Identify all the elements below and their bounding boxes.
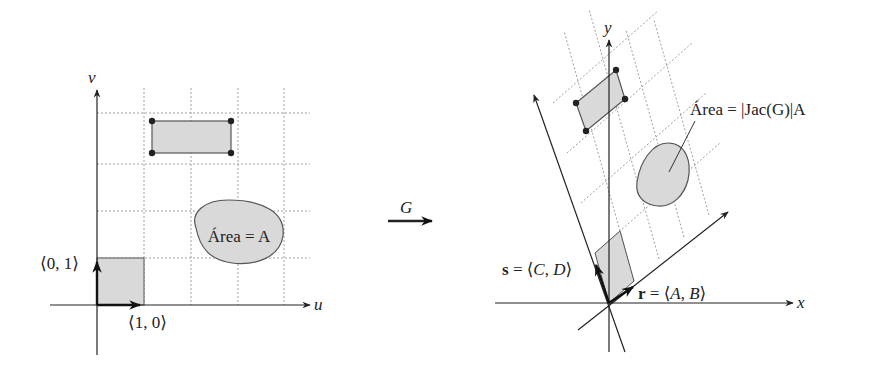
xy-region: [637, 143, 689, 206]
unit-parallelogram: [595, 231, 634, 303]
r-label: r = ⟨A, B⟩: [638, 284, 706, 303]
e2-label: ⟨0, 1⟩: [40, 254, 79, 273]
e1-label: ⟨1, 0⟩: [128, 313, 167, 332]
uv-plane: Área = A u v ⟨1, 0⟩ ⟨0, 1⟩: [40, 68, 323, 355]
unit-square: [97, 258, 144, 305]
uv-region-label: Área = A: [208, 227, 271, 246]
y-axis-label: y: [602, 18, 612, 37]
v-axis-label: v: [88, 68, 96, 87]
v-image-axis: [534, 95, 625, 352]
xy-grid: [553, 9, 720, 281]
map-label: G: [400, 198, 412, 217]
change-of-variables-diagram: Área = A u v ⟨1, 0⟩ ⟨0, 1⟩ G: [0, 0, 869, 370]
map-arrow: G: [388, 198, 432, 221]
s-label: s = ⟨C, D⟩: [502, 260, 572, 279]
u-axis-label: u: [314, 295, 323, 314]
xy-plane: Área = |Jac(G)|A x y r = ⟨A, B⟩ s = ⟨C, …: [495, 9, 806, 352]
uv-rectangle: [149, 118, 234, 156]
xy-region-label: Área = |Jac(G)|A: [690, 100, 806, 119]
x-axis-label: x: [796, 293, 805, 312]
